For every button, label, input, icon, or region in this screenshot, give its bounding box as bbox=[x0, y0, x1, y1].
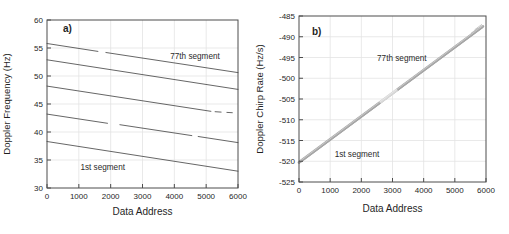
x-tick-label: 3000 bbox=[134, 192, 152, 201]
chart-svg: 0100020003000400050006000-525-520-515-51… bbox=[255, 0, 509, 234]
y-axis-label: Doppler Chirp Rate (Hz/s) bbox=[255, 44, 265, 153]
segment-trace bbox=[47, 86, 211, 111]
y-tick-label: -485 bbox=[279, 12, 296, 21]
panel-a-doppler-frequency: 010002000300040005000600030354045505560D… bbox=[0, 0, 255, 234]
x-tick-label: 6000 bbox=[229, 192, 247, 201]
y-tick-label: -490 bbox=[279, 33, 296, 42]
x-tick-label: 4000 bbox=[165, 192, 183, 201]
y-tick-label: -500 bbox=[279, 74, 296, 83]
panel-label: a) bbox=[63, 23, 72, 34]
segment-trace bbox=[198, 137, 238, 143]
chart-svg: 010002000300040005000600030354045505560D… bbox=[0, 0, 255, 234]
segment-annotation: 1st segment bbox=[80, 163, 125, 172]
y-tick-label: 30 bbox=[34, 184, 43, 193]
panel-b-doppler-chirp-rate: 0100020003000400050006000-525-520-515-51… bbox=[255, 0, 509, 234]
doppler-parameters-figure: 010002000300040005000600030354045505560D… bbox=[0, 0, 509, 234]
y-tick-label: -510 bbox=[279, 116, 296, 125]
y-tick-label: 60 bbox=[34, 16, 43, 25]
segment-annotation: 77th segment bbox=[170, 52, 220, 61]
y-tick-label: 40 bbox=[34, 128, 43, 137]
y-tick-label: -495 bbox=[279, 54, 296, 63]
x-tick-label: 3000 bbox=[384, 186, 402, 195]
segment-annotation: 1st segment bbox=[335, 150, 380, 159]
x-tick-label: 6000 bbox=[477, 186, 495, 195]
y-tick-label: 45 bbox=[34, 100, 43, 109]
segment-trace bbox=[120, 125, 192, 136]
x-tick-label: 4000 bbox=[415, 186, 433, 195]
x-tick-label: 2000 bbox=[102, 192, 120, 201]
segment-annotation: 77th segment bbox=[377, 54, 427, 63]
x-tick-label: 0 bbox=[297, 186, 302, 195]
panel-label: b) bbox=[312, 26, 321, 37]
x-tick-label: 5000 bbox=[197, 192, 215, 201]
y-tick-label: 50 bbox=[34, 72, 43, 81]
segment-trace bbox=[47, 114, 108, 123]
y-axis-label: Doppler Frequency (Hz) bbox=[1, 53, 12, 154]
y-tick-label: 35 bbox=[34, 156, 43, 165]
x-tick-label: 1000 bbox=[321, 186, 339, 195]
band-light-patch bbox=[380, 90, 397, 103]
x-tick-label: 5000 bbox=[446, 186, 464, 195]
x-axis-label: Data Address bbox=[362, 203, 422, 214]
y-tick-label: 55 bbox=[34, 44, 43, 53]
y-tick-label: -515 bbox=[279, 137, 296, 146]
x-tick-label: 1000 bbox=[70, 192, 88, 201]
y-tick-label: -505 bbox=[279, 95, 296, 104]
segment-trace bbox=[47, 44, 98, 52]
x-tick-label: 2000 bbox=[352, 186, 370, 195]
y-tick-label: -525 bbox=[279, 178, 296, 187]
x-tick-label: 0 bbox=[45, 192, 50, 201]
y-tick-label: -520 bbox=[279, 157, 296, 166]
x-axis-label: Data Address bbox=[112, 206, 172, 217]
